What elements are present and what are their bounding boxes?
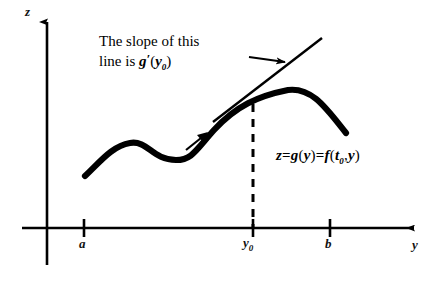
slope-annotation-prime: ′ (147, 51, 151, 66)
z-axis-label: z (25, 5, 30, 19)
math-figure: z y a y0 b The slope of this line is g′(… (0, 0, 447, 290)
tick-label-y0-subscript: 0 (249, 243, 254, 253)
equation-f-paren-close: ) (355, 147, 360, 163)
slope-annotation-function: g (139, 53, 147, 69)
slope-annotation-line1: The slope of this (99, 32, 199, 52)
slope-annotation-paren-close: ) (166, 53, 171, 69)
equation-g: g (291, 147, 299, 163)
tick-label-b: b (325, 237, 332, 251)
y-axis-label: y (412, 238, 418, 252)
tick-label-y0: y0 (243, 236, 253, 253)
tick-label-a: a (79, 237, 86, 251)
slope-annotation-line2: line is g′(y0) (99, 52, 199, 74)
slope-annotation-prefix: line is (99, 53, 139, 69)
equation-f-arg2: y (348, 147, 355, 163)
slope-annotation: The slope of this line is g′(y0) (99, 32, 199, 74)
tangent-line (213, 38, 322, 122)
annotation-pointer-arrow (249, 57, 285, 62)
equation-g-arg: y (304, 147, 311, 163)
equation-equals-1: = (282, 147, 291, 163)
curve-equation-label: z=g(y)=f(t0,y) (276, 147, 360, 166)
figure-canvas (0, 0, 447, 290)
slope-annotation-arg: y (155, 53, 162, 69)
equation-equals-2: = (316, 147, 325, 163)
